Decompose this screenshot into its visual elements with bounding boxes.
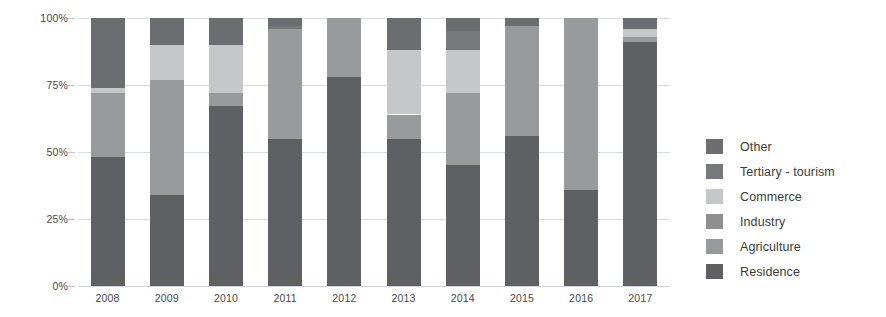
bar-column[interactable]: 2014 [446,18,480,286]
bar-stack [446,18,480,286]
bar-segment[interactable] [387,18,421,50]
y-axis-tick-mark [68,85,75,86]
bar-segment[interactable] [623,18,657,29]
bar-segment[interactable] [91,88,125,93]
bar-column[interactable]: 2008 [91,18,125,286]
legend-item[interactable]: Tertiary - tourism [706,159,881,184]
bar-segment[interactable] [268,139,302,286]
bar-segment[interactable] [446,165,480,286]
y-axis-tick-mark [68,152,75,153]
legend-swatch [706,164,723,179]
bar-stack [505,18,539,286]
bar-segment[interactable] [268,26,302,29]
bar-segment[interactable] [505,18,539,26]
bar-column[interactable]: 2009 [150,18,184,286]
legend-label: Agriculture [740,240,801,254]
legend-item[interactable]: Other [706,134,881,159]
bar-segment[interactable] [150,80,184,195]
bar-segment[interactable] [209,106,243,286]
x-axis-tick-label: 2009 [137,292,197,304]
bar-segment[interactable] [623,29,657,37]
bar-stack [623,18,657,286]
x-axis-tick-label: 2008 [78,292,138,304]
bar-segment[interactable] [564,18,598,190]
bar-stack [268,18,302,286]
bar-segment[interactable] [387,50,421,114]
bar-segment[interactable] [327,18,361,77]
bar-segment[interactable] [446,93,480,165]
bar-stack [209,18,243,286]
chart-legend: OtherTertiary - tourismCommerceIndustryA… [706,134,881,284]
bar-segment[interactable] [91,93,125,157]
x-axis-tick-label: 2010 [196,292,256,304]
bar-column[interactable]: 2012 [327,18,361,286]
y-axis-tick-mark [68,18,75,19]
bar-segment[interactable] [268,18,302,26]
y-axis: 100%75%50%25%0% [0,18,68,286]
bar-segment[interactable] [150,18,184,45]
gridline-0 [78,286,670,287]
bar-segment[interactable] [150,45,184,80]
bar-stack [327,18,361,286]
x-axis-tick-label: 2014 [433,292,493,304]
bar-segment[interactable] [564,190,598,286]
bar-segment[interactable] [505,26,539,136]
bar-column[interactable]: 2016 [564,18,598,286]
x-axis-tick-label: 2011 [255,292,315,304]
bar-segment[interactable] [91,157,125,286]
bar-stack [564,18,598,286]
bar-column[interactable]: 2013 [387,18,421,286]
bar-column[interactable]: 2011 [268,18,302,286]
legend-swatch [706,239,723,254]
bar-stack [150,18,184,286]
legend-swatch [706,139,723,154]
x-axis-tick-label: 2012 [314,292,374,304]
legend-label: Commerce [740,190,802,204]
bar-segment[interactable] [209,93,243,106]
bar-segment[interactable] [623,37,657,42]
legend-swatch [706,264,723,279]
bar-segment[interactable] [91,18,125,88]
bar-segment[interactable] [209,18,243,45]
bar-stack [387,18,421,286]
bar-segment[interactable] [387,115,421,139]
legend-item[interactable]: Commerce [706,184,881,209]
y-axis-tick-label: 0% [8,280,68,292]
bar-column[interactable]: 2015 [505,18,539,286]
plot-area: 2008200920102011201220132014201520162017 [78,18,670,286]
legend-item[interactable]: Industry [706,209,881,234]
x-axis-tick-label: 2017 [610,292,670,304]
legend-label: Tertiary - tourism [740,165,835,179]
bar-segment[interactable] [150,195,184,286]
bar-segment[interactable] [446,18,480,31]
legend-swatch [706,214,723,229]
x-axis-tick-label: 2016 [551,292,611,304]
bar-segment[interactable] [446,31,480,50]
y-axis-tick-label: 25% [8,213,68,225]
bar-segment[interactable] [446,50,480,93]
x-axis-tick-label: 2013 [374,292,434,304]
legend-swatch [706,189,723,204]
bar-segment[interactable] [387,139,421,286]
stacked-bar-chart: 100%75%50%25%0% 200820092010201120122013… [0,0,886,317]
y-axis-tick-mark [68,219,75,220]
legend-item[interactable]: Residence [706,259,881,284]
bar-column[interactable]: 2017 [623,18,657,286]
legend-label: Other [740,140,772,154]
bar-segment[interactable] [327,77,361,286]
y-axis-tick-label: 100% [8,12,68,24]
legend-label: Industry [740,215,785,229]
bar-segment[interactable] [505,136,539,286]
bar-stack [91,18,125,286]
y-axis-tick-label: 50% [8,146,68,158]
bar-segment[interactable] [623,42,657,286]
bar-segment[interactable] [209,45,243,93]
legend-item[interactable]: Agriculture [706,234,881,259]
y-axis-tick-label: 75% [8,79,68,91]
x-axis-tick-label: 2015 [492,292,552,304]
bar-column[interactable]: 2010 [209,18,243,286]
legend-label: Residence [740,265,800,279]
bar-segment[interactable] [268,29,302,139]
y-axis-tick-mark [68,286,75,287]
